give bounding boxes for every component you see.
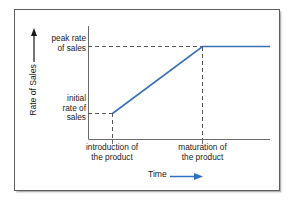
y-axis-title: Rate of Sales: [28, 50, 38, 130]
time-arrow-icon: [170, 173, 203, 180]
plot-canvas: [0, 0, 294, 202]
initial-rate-label: initial rate of sales: [62, 94, 86, 123]
peak-rate-label: peak rate of sales: [51, 34, 86, 53]
introduction-axis-label: introduction of the product: [63, 143, 161, 162]
sales-rate-curve: [113, 47, 271, 114]
maturation-axis-label: maturation of the product: [155, 143, 250, 162]
figure-container: peak rate of sales initial rate of sales…: [0, 0, 294, 202]
x-axis-title: Time: [148, 170, 167, 180]
